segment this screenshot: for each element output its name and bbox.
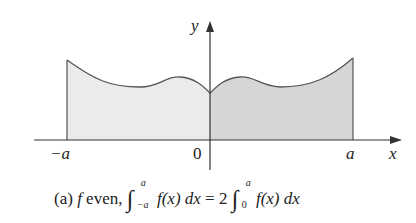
integral-sign-icon: ∫: [232, 186, 239, 212]
int2-upper-limit: a: [246, 177, 251, 188]
origin-label: 0: [193, 145, 202, 162]
integrand-2: f(x) dx: [256, 189, 300, 208]
minus-a-label: −a: [50, 145, 70, 162]
integral-sign-icon: ∫: [127, 186, 134, 212]
x-axis-label: x: [389, 145, 397, 162]
y-axis-label: y: [191, 17, 199, 34]
int2-lower-limit: 0: [242, 199, 247, 210]
equals-two: = 2: [205, 189, 227, 208]
caption-f: f: [77, 189, 82, 208]
int1-upper-limit: a: [141, 177, 146, 188]
right-shaded-region: [210, 58, 353, 140]
caption-prefix: (a): [54, 189, 73, 208]
y-axis-arrow-icon: [206, 21, 214, 32]
a-label: a: [346, 145, 355, 162]
left-shaded-region: [67, 60, 210, 140]
x-axis-arrow-icon: [390, 136, 402, 144]
figure-caption: (a) f even, ∫ a −a f(x) dx = 2 ∫ a 0 f(x…: [54, 183, 300, 210]
caption-even: even,: [86, 189, 122, 208]
integrand-1: f(x) dx: [157, 189, 201, 208]
int1-lower-limit: −a: [137, 199, 149, 210]
